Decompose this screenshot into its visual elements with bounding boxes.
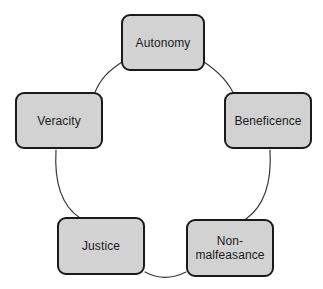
connector-veracity-autonomy <box>94 62 122 95</box>
node-beneficence[interactable]: Beneficence <box>224 92 312 149</box>
node-non-malfeasance-label: Non- malfeasance <box>192 234 267 262</box>
node-veracity[interactable]: Veracity <box>15 92 103 149</box>
connector-beneficence-nonmalfeasance <box>246 150 270 219</box>
connector-autonomy-beneficence <box>204 62 234 95</box>
ethics-principles-cycle-diagram: Autonomy Beneficence Non- malfeasance Ju… <box>0 0 323 289</box>
node-justice[interactable]: Justice <box>57 217 145 275</box>
node-non-malfeasance[interactable]: Non- malfeasance <box>186 219 274 277</box>
node-autonomy-label: Autonomy <box>133 36 194 50</box>
node-justice-label: Justice <box>79 239 123 253</box>
connector-justice-nonmalfeasance <box>145 272 186 277</box>
connector-veracity-justice <box>56 150 80 218</box>
node-beneficence-label: Beneficence <box>231 114 304 128</box>
node-veracity-label: Veracity <box>34 114 84 128</box>
node-autonomy[interactable]: Autonomy <box>121 14 205 71</box>
